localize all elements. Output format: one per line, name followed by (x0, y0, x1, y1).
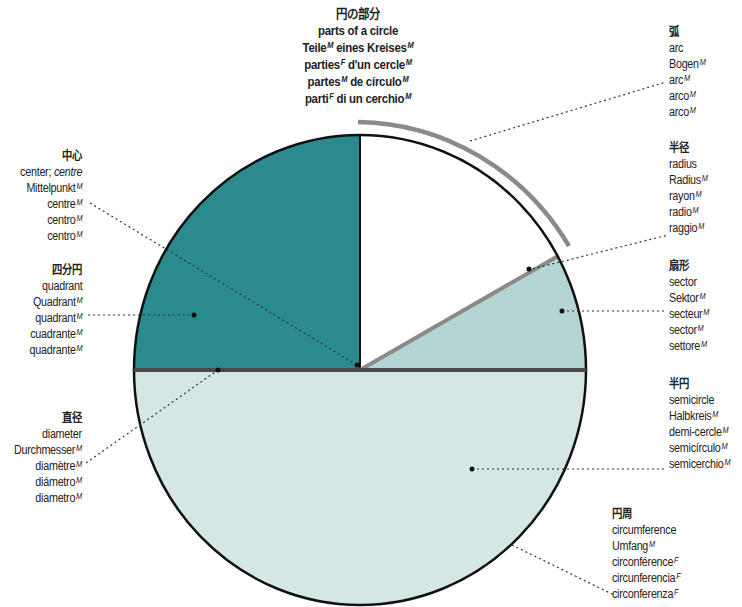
label-semicircle-heading: 半円 (669, 376, 730, 392)
dot-sector (560, 309, 565, 314)
label-center: 中心 center; centre MittelpunktM centreM c… (20, 148, 82, 244)
label-diameter: 直径 diameter DurchmesserM diamètreM diáme… (14, 410, 82, 506)
dot-diameter (216, 368, 221, 373)
title-ja: 円の部分 (270, 5, 446, 22)
dot-semicircle (470, 467, 475, 472)
title-it: partiF di un cerchioM (270, 90, 446, 107)
label-quadrant-heading: 四分円 (29, 262, 82, 278)
title-en: parts of a circle (270, 22, 446, 39)
title-de: TeileM eines KreisesM (270, 39, 446, 56)
label-arc: 弧 arc BogenM arcM arcoM arcoM (669, 24, 705, 120)
title-fr: partiesF d'un cercleM (270, 56, 446, 73)
dot-center (355, 363, 360, 368)
label-sector-heading: 扇形 (669, 258, 709, 274)
semicircle-region (134, 370, 586, 605)
dot-quadrant (192, 313, 197, 318)
leader-arc (470, 82, 666, 141)
label-circumference: 円周 circumference UmfangM circonférenceF … (612, 506, 680, 602)
title-es: partesM de círculoM (270, 73, 446, 90)
label-semicircle: 半円 semicircle HalbkreisM demi-cercleM se… (669, 376, 730, 472)
label-arc-heading: 弧 (669, 24, 705, 40)
label-radius-heading: 半径 (669, 140, 708, 156)
leader-circumference (512, 545, 614, 595)
quadrant-region (134, 135, 360, 370)
label-sector: 扇形 sector SektorM secteurM sectorM setto… (669, 258, 709, 354)
label-circumference-heading: 円周 (612, 506, 680, 522)
label-radius: 半径 radius RadiusM rayonM radioM raggioM (669, 140, 708, 236)
diagram-title: 円の部分 parts of a circle TeileM eines Krei… (270, 5, 446, 107)
dot-radius (527, 267, 532, 272)
label-center-heading: 中心 (20, 148, 82, 164)
label-diameter-heading: 直径 (14, 410, 82, 426)
label-quadrant: 四分円 quadrant QuadrantM quadrantM cuadran… (29, 262, 82, 358)
